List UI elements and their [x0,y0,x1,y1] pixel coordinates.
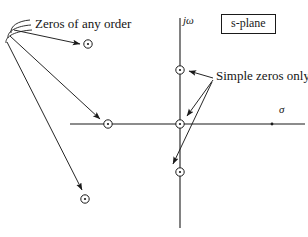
imaginary-axis-label: jω [183,15,194,26]
s-plane-title-box: s-plane [221,14,276,34]
arrow-to-origin-zero [187,80,213,116]
zero-markers [81,40,184,203]
zero-marker-lower-imaginary [176,168,184,176]
simple-zeros-arrows [173,71,213,164]
s-plane-zero-diagram: Zeros of any order Simple zeros only jω … [0,0,308,237]
zero-marker-upper-imaginary [176,66,184,74]
zero-marker-upper-left [84,40,92,48]
simple-zeros-only-label: Simple zeros only [216,69,308,82]
arrow-to-upper-imag-zero [189,71,213,78]
zero-marker-real-axis [104,120,112,128]
real-axis-tick-dot [271,123,274,126]
zero-marker-origin [176,120,184,128]
arrow-to-zero-lower-left [7,42,82,190]
diagram-canvas [0,0,308,237]
zero-marker-lower-left [81,195,89,203]
zeros-any-order-arrows [7,30,100,190]
arrow-to-zero-upper-left [14,30,80,44]
zeros-any-order-label: Zeros of any order [35,17,131,30]
real-axis-label: σ [279,104,284,115]
